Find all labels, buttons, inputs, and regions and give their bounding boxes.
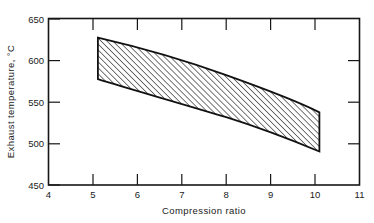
x-tick-label-8: 8 — [224, 189, 229, 200]
x-axis-ticks — [93, 174, 315, 185]
x-tick-label-6: 6 — [135, 189, 140, 200]
y-tick-label-450: 450 — [28, 180, 44, 191]
y-tick-label-600: 600 — [28, 55, 44, 66]
y-tick-label-500: 500 — [28, 138, 44, 149]
x-tick-label-11: 11 — [355, 189, 365, 200]
x-tick-label-4: 4 — [46, 189, 51, 200]
exhaust-temperature-vs-compression-ratio-chart: 650 600 550 500 450 4 5 6 7 8 9 10 11 Co… — [0, 0, 374, 223]
y-tick-label-550: 550 — [28, 97, 44, 108]
data-band-hatched — [98, 38, 320, 152]
x-axis-title: Compression ratio — [162, 205, 246, 216]
y-axis-ticks — [49, 19, 61, 185]
x-tick-labels: 4 5 6 7 8 9 10 11 — [46, 189, 365, 200]
x-axis-ticks-top — [93, 19, 315, 30]
x-tick-label-7: 7 — [179, 189, 184, 200]
y-axis-ticks-right — [348, 61, 360, 144]
y-axis-title: Exhaust temperature, °C — [5, 45, 16, 158]
x-tick-label-5: 5 — [90, 189, 95, 200]
y-tick-label-650: 650 — [28, 14, 44, 25]
x-tick-label-9: 9 — [268, 189, 273, 200]
y-tick-labels: 650 600 550 500 450 — [28, 14, 44, 191]
chart-figure: 650 600 550 500 450 4 5 6 7 8 9 10 11 Co… — [0, 0, 374, 223]
x-tick-label-10: 10 — [310, 189, 321, 200]
